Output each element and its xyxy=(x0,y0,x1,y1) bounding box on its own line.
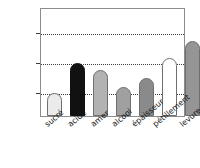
bar-levure xyxy=(185,41,200,116)
x-axis-labels: sucré acide amer alcool épaisseur pétill… xyxy=(0,117,200,168)
chart-title xyxy=(0,0,200,6)
bar-chart: fort moyen faible sucré acide amer alcoo… xyxy=(0,0,200,168)
gridline-fort xyxy=(41,34,184,35)
